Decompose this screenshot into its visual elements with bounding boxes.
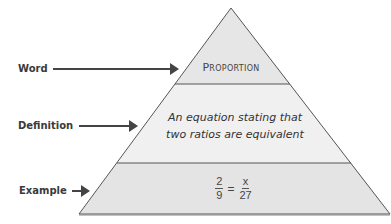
right-arrow-icon [53,63,179,75]
fraction-left: 2 9 [215,176,223,201]
fraction-right-numerator: x [242,176,250,189]
fraction-right-denominator: 27 [238,189,252,201]
right-arrow-icon [72,185,90,197]
fraction-right: x 27 [238,176,252,201]
equals-sign: = [227,183,234,195]
label-word: Word [18,64,48,74]
fraction-left-denominator: 9 [215,189,223,201]
right-arrow-icon [79,120,138,132]
label-definition: Definition [18,121,73,131]
tier-example-equation: 2 9 = x 27 [184,176,284,201]
fraction-left-numerator: 2 [215,176,223,189]
tier-word-text: Proportion [181,62,281,73]
label-example: Example [19,186,67,196]
definition-line-1: An equation stating that [150,109,320,126]
vocabulary-pyramid-diagram: Word Definition Example Proportion An eq… [0,0,391,224]
definition-line-2: two ratios are equivalent [150,126,320,143]
tier-definition-text: An equation stating that two ratios are … [150,109,320,143]
